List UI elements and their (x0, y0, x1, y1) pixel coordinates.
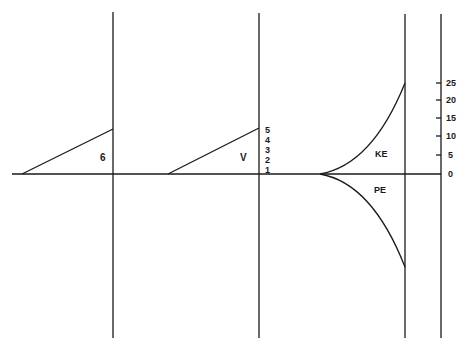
panel-2-label: V (240, 152, 247, 163)
right-scale: 25 20 15 10 5 0 (436, 78, 456, 179)
pe-curve (320, 174, 405, 267)
ke-label: KE (375, 149, 388, 159)
v-scale-label: 1 (265, 165, 270, 175)
v-scale-label: 3 (265, 145, 270, 155)
panel-1-label: 6 (100, 152, 106, 163)
scale-tick-label: 20 (446, 95, 456, 105)
scale-tick-label: 15 (446, 113, 456, 123)
scale-tick-label: 0 (448, 169, 453, 179)
pe-label: PE (374, 185, 386, 195)
ramp-line-2 (168, 128, 259, 174)
scale-tick-label: 25 (446, 78, 456, 88)
scale-tick-label: 5 (448, 150, 453, 160)
v-scale-labels: 5 4 3 2 1 (265, 125, 270, 175)
energy-diagram: 6 V 5 4 3 2 1 KE PE 25 20 15 10 5 0 (0, 0, 466, 347)
scale-tick-label: 10 (446, 131, 456, 141)
v-scale-label: 4 (265, 135, 270, 145)
v-scale-label: 5 (265, 125, 270, 135)
ke-curve (320, 83, 405, 174)
v-scale-label: 2 (265, 155, 270, 165)
